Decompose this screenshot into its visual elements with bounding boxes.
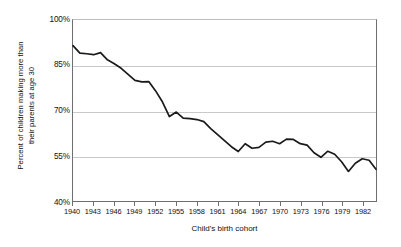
y-tick-label-55%: 55% xyxy=(36,152,70,161)
data-series-line xyxy=(73,20,376,201)
series-polyline xyxy=(73,46,376,172)
x-tick-1946 xyxy=(114,202,115,206)
x-tick-1955 xyxy=(176,202,177,206)
x-axis-tick-labels: 1940194319461949195219551958196119641967… xyxy=(72,207,377,219)
x-tick-1940 xyxy=(72,202,73,206)
x-axis-title: Child's birth cohort xyxy=(72,224,377,234)
y-tick-label-70%: 70% xyxy=(36,106,70,115)
x-tick-1952 xyxy=(155,202,156,206)
x-tick-1949 xyxy=(134,202,135,206)
x-tick-1967 xyxy=(259,202,260,206)
plot-area xyxy=(72,19,377,202)
x-tick-1961 xyxy=(218,202,219,206)
y-tick-label-85%: 85% xyxy=(36,60,70,69)
chart-container: Percent of children making more than the… xyxy=(0,0,401,247)
x-tick-label-1982: 1982 xyxy=(348,207,378,216)
x-tick-1979 xyxy=(342,202,343,206)
y-axis-title-line1: Percent of children making more than xyxy=(16,41,27,169)
y-tick-label-100%: 100% xyxy=(36,15,70,24)
x-tick-1976 xyxy=(322,202,323,206)
x-tick-1964 xyxy=(238,202,239,206)
x-tick-1973 xyxy=(301,202,302,206)
x-tick-1943 xyxy=(93,202,94,206)
y-tick-label-40%: 40% xyxy=(36,198,70,207)
x-tick-1958 xyxy=(197,202,198,206)
x-tick-1970 xyxy=(280,202,281,206)
x-tick-1982 xyxy=(363,202,364,206)
